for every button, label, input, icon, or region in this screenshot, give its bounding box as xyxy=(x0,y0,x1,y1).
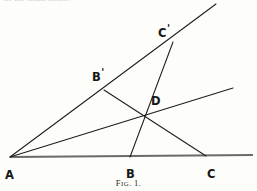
segment-ray-A-to-D xyxy=(10,88,233,157)
point-label-Cprime-text: C xyxy=(158,26,166,40)
point-label-D-text: D xyxy=(151,94,161,108)
point-label-Bprime-prime: ' xyxy=(101,67,104,78)
figure-caption-suffix: . 1. xyxy=(129,178,141,188)
figure-container: of the small circle. A B C B' C' D FIG. … xyxy=(0,0,257,191)
geometry-diagram xyxy=(0,0,257,191)
segment-ray-A-to-Cp xyxy=(10,4,216,157)
point-label-Cprime-prime: ' xyxy=(167,23,170,34)
point-label-Cprime: C' xyxy=(158,24,170,39)
point-label-Bprime-text: B xyxy=(92,70,101,84)
segment-baseline xyxy=(10,155,253,157)
point-label-D: D xyxy=(151,92,161,107)
figure-caption: FIG. 1. xyxy=(0,178,257,188)
figure-caption-smallcaps: IG xyxy=(121,180,129,187)
point-label-Bprime: B' xyxy=(92,68,104,83)
